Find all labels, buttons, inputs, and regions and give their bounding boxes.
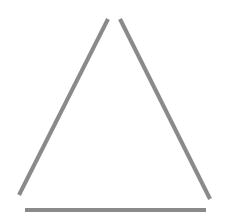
left-side-line — [19, 19, 108, 195]
triangle-diagram — [0, 0, 226, 222]
right-side-line — [120, 19, 210, 199]
